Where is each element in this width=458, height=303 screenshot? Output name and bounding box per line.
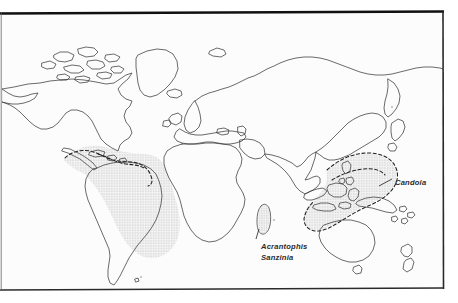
coastline-eurasia-north: [195, 57, 443, 101]
coastline-southern-islets: [135, 278, 139, 282]
coastline-svalbard: [209, 48, 226, 57]
melanesian-range-fill: [304, 154, 397, 230]
world-map: [2, 11, 443, 289]
figure-container: Acrantophis Sanzinia Candoia: [0, 0, 458, 303]
coastline-tasmania: [353, 265, 362, 274]
map-frame: Acrantophis Sanzinia Candoia: [2, 11, 443, 289]
coastline-arabia: [240, 139, 265, 159]
range-label-sanzinia: Sanzinia: [261, 253, 293, 262]
coastline-iceland: [167, 89, 182, 98]
coastline-japan: [388, 119, 405, 151]
leader-line-madagascar: [256, 229, 259, 239]
range-label-candoia: Candoia: [395, 178, 426, 187]
coastline-kamchatka: [384, 79, 400, 117]
coastline-alaska: [2, 89, 38, 104]
range-label-acrantophis: Acrantophis: [261, 242, 308, 251]
coastline-europe-south: [174, 129, 246, 144]
coastline-north-america: [2, 73, 132, 151]
coastline-british-isles: [163, 113, 182, 127]
figure-border-right: [443, 12, 444, 290]
coastline-arctic-islands: [42, 47, 124, 83]
coastline-asia-south: [265, 152, 320, 194]
coastline-melanesian-islands: [392, 206, 415, 224]
coastline-scandinavia: [184, 101, 201, 133]
coastline-new-zealand: [401, 244, 414, 272]
coastline-asia-east: [316, 113, 386, 160]
madagascar-range-fill: [258, 205, 270, 233]
